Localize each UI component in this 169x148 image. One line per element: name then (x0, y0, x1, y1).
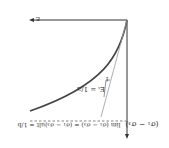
stress-axis-label: (σ₁ − σ₃) (125, 120, 158, 129)
asymptote-label: lim (σ₁ − σ₃) = (σ₁ − σ₃)ult = 1/b (17, 122, 120, 129)
stress-strain-diagram: ε (σ₁ − σ₃) Eᵢ = 1/a 1 lim (σ₁ − σ₃) = (… (0, 0, 169, 148)
strain-axis-label: ε (36, 15, 40, 24)
diagram-canvas: ε (σ₁ − σ₃) Eᵢ = 1/a 1 lim (σ₁ − σ₃) = (… (0, 0, 169, 148)
strain-axis-arrow-icon (29, 18, 34, 22)
stress-strain-curve (30, 20, 127, 111)
stress-axis-arrow-icon (125, 134, 129, 139)
tangent-slope-label: Eᵢ = 1/a (77, 85, 105, 93)
triangle-unit-label: 1 (105, 76, 109, 83)
